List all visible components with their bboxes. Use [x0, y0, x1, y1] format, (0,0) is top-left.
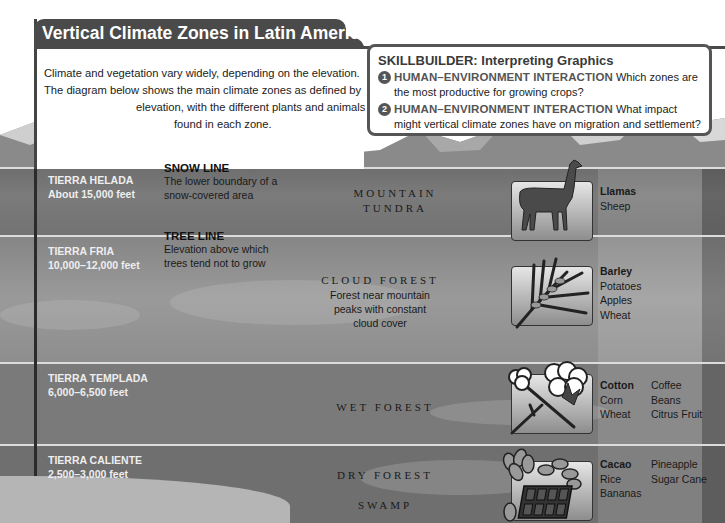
divider-zone	[0, 362, 725, 364]
produce-item: Rice	[600, 472, 640, 487]
boundary-desc: The lower boundary of a	[164, 174, 277, 188]
vegetation-mountain-tundra: MOUNTAIN TUNDRA	[330, 186, 460, 216]
produce-item: Potatoes	[600, 279, 641, 294]
produce-item: Citrus Fruit	[651, 407, 702, 422]
vegetation-desc: peaks with constant	[310, 302, 450, 316]
produce-list-tierra-templada: Cotton Corn Wheat Coffee Beans Citrus Fr…	[600, 378, 710, 422]
produce-item: Sheep	[600, 199, 636, 214]
boundary-desc: snow-covered area	[164, 188, 277, 202]
produce-item: Bananas	[600, 486, 640, 501]
cloud-texture	[0, 300, 140, 330]
zone-label-tierra-helada: TIERRA HELADA About 15,000 feet	[48, 173, 135, 201]
produce-list-tierra-caliente: Cacao Rice Bananas Pineapple Sugar Cane	[600, 457, 715, 501]
produce-item: Cacao	[600, 458, 632, 470]
divider-tree-line	[0, 235, 725, 237]
zone-name: TIERRA HELADA	[48, 173, 135, 187]
llama-icon	[511, 181, 593, 241]
question-category: HUMAN–ENVIRONMENT INTERACTION	[394, 71, 613, 83]
produce-item: Cotton	[600, 379, 634, 391]
vegetation-desc: Forest near mountain	[310, 288, 450, 302]
zone-elevation: 10,000–12,000 feet	[48, 258, 140, 272]
produce-item: Llamas	[600, 185, 636, 197]
skillbuilder-box: SKILLBUILDER: Interpreting Graphics 1 HU…	[367, 44, 712, 136]
produce-item: Wheat	[600, 308, 641, 323]
skillbuilder-question-2: 2 HUMAN–ENVIRONMENT INTERACTION What imp…	[378, 102, 701, 132]
vegetation-label: MOUNTAIN	[330, 186, 460, 201]
vegetation-label: TUNDRA	[330, 201, 460, 216]
produce-list-tierra-helada: Llamas Sheep	[600, 184, 644, 213]
intro-line: The diagram below shows the main climate…	[44, 82, 374, 99]
produce-item: Apples	[600, 293, 641, 308]
question-text: might vertical climate zones have on mig…	[394, 118, 701, 130]
number-badge-icon: 1	[378, 71, 391, 84]
vegetation-label: CLOUD FOREST	[310, 273, 450, 288]
question-text: the most productive for growing crops?	[394, 86, 584, 98]
vegetation-dry-forest: DRY FOREST	[320, 469, 450, 481]
divider-zone	[0, 444, 725, 446]
zone-label-tierra-caliente: TIERRA CALIENTE 2,500–3,000 feet	[48, 453, 142, 481]
zone-elevation: 2,500–3,000 feet	[48, 467, 142, 481]
produce-list-tierra-fria: Barley Potatoes Apples Wheat	[600, 264, 649, 322]
snow-line-label: SNOW LINE The lower boundary of a snow-c…	[164, 162, 277, 202]
zone-name: TIERRA CALIENTE	[48, 453, 142, 467]
produce-item: Sugar Cane	[651, 472, 707, 487]
skillbuilder-question-1: 1 HUMAN–ENVIRONMENT INTERACTION Which zo…	[378, 70, 701, 100]
skillbuilder-title: SKILLBUILDER: Interpreting Graphics	[378, 53, 701, 68]
produce-item: Barley	[600, 265, 632, 277]
produce-item: Pineapple	[651, 457, 707, 472]
cotton-icon	[511, 374, 593, 434]
boundary-desc: trees tend not to grow	[164, 256, 268, 270]
intro-text: Climate and vegetation vary widely, depe…	[44, 65, 374, 133]
boundary-title: TREE LINE	[164, 230, 268, 242]
vegetation-desc: cloud cover	[310, 316, 450, 330]
wheat-icon	[511, 266, 593, 326]
zone-label-tierra-templada: TIERRA TEMPLADA 6,000–6,500 feet	[48, 371, 148, 399]
question-text: What impact	[616, 103, 677, 115]
cacao-chocolate-icon	[511, 461, 593, 521]
question-category: HUMAN–ENVIRONMENT INTERACTION	[394, 103, 613, 115]
zone-elevation: 6,000–6,500 feet	[48, 385, 148, 399]
produce-item: Corn	[600, 393, 640, 408]
question-text: Which zones are	[616, 71, 698, 83]
zone-elevation: About 15,000 feet	[48, 187, 135, 201]
vegetation-swamp: SWAMP	[320, 499, 450, 511]
zone-label-tierra-fria: TIERRA FRIA 10,000–12,000 feet	[48, 244, 140, 272]
tree-line-label: TREE LINE Elevation above which trees te…	[164, 230, 268, 270]
page-title: Vertical Climate Zones in Latin America	[42, 23, 369, 44]
produce-item: Wheat	[600, 407, 640, 422]
vegetation-cloud-forest: CLOUD FOREST Forest near mountain peaks …	[310, 273, 450, 330]
zone-name: TIERRA TEMPLADA	[48, 371, 148, 385]
number-badge-icon: 2	[378, 103, 391, 116]
zone-name: TIERRA FRIA	[48, 244, 140, 258]
vegetation-wet-forest: WET FOREST	[320, 401, 450, 413]
intro-line: found in each zone.	[44, 116, 374, 133]
produce-item: Beans	[651, 393, 702, 408]
boundary-desc: Elevation above which	[164, 242, 268, 256]
intro-line: Climate and vegetation vary widely, depe…	[44, 65, 374, 82]
produce-item: Coffee	[651, 378, 702, 393]
intro-line: elevation, with the different plants and…	[44, 99, 374, 116]
boundary-title: SNOW LINE	[164, 162, 277, 174]
